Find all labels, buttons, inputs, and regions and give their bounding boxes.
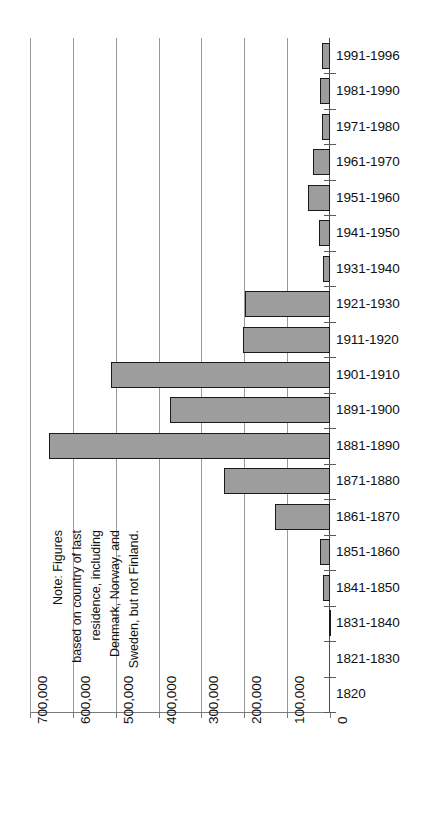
bar-1941-1950 (319, 220, 330, 246)
bar-1961-1970 (313, 149, 330, 175)
category-label-1871-1880: 1871-1880 (336, 474, 400, 488)
bar-1951-1960 (308, 185, 330, 211)
category-tick-1931-1940 (324, 286, 336, 287)
category-tick-1981-1990 (324, 109, 336, 110)
value-axis-label-100000: 100,000 (293, 676, 307, 724)
category-tick-1820 (324, 712, 336, 713)
category-tick-1851-1860 (324, 570, 336, 571)
bar-1931-1940 (323, 256, 330, 282)
category-label-1981-1990: 1981-1990 (336, 84, 400, 98)
axis-tick-700000 (30, 712, 31, 718)
axis-tick-600000 (73, 712, 74, 718)
bar-1891-1900 (170, 397, 330, 423)
axis-tick-100000 (287, 712, 288, 718)
bar-1971-1980 (322, 114, 330, 140)
category-tick-1911-1920 (324, 357, 336, 358)
bar-1901-1910 (111, 362, 330, 388)
axis-tick-500000 (116, 712, 117, 718)
category-label-1931-1940: 1931-1940 (336, 262, 400, 276)
category-label-1941-1950: 1941-1950 (336, 226, 400, 240)
category-tick-1881-1890 (324, 464, 336, 465)
category-tick-1831-1840 (324, 641, 336, 642)
axis-tick-400000 (159, 712, 160, 718)
bar-1981-1990 (320, 78, 330, 104)
gridline-700000 (30, 38, 31, 712)
category-label-1820: 1820 (336, 687, 366, 701)
category-label-1891-1900: 1891-1900 (336, 403, 400, 417)
bar-1881-1890 (49, 433, 330, 459)
bar-chart: 1991-19961981-19901971-19801961-19701951… (0, 0, 425, 834)
category-tick-1991-1996 (324, 73, 336, 74)
bar-1831-1840 (329, 610, 331, 636)
bar-1911-1920 (243, 327, 330, 353)
category-tick-1871-1880 (324, 499, 336, 500)
bar-1871-1880 (224, 468, 330, 494)
category-tick-1921-1930 (324, 322, 336, 323)
category-tick-1961-1970 (324, 180, 336, 181)
note-line-5: Sweden, but not Finland. (128, 530, 303, 668)
category-label-1921-1930: 1921-1930 (336, 297, 400, 311)
category-label-1991-1996: 1991-1996 (336, 49, 400, 63)
category-tick-1861-1870 (324, 535, 336, 536)
value-axis-label-700000: 700,000 (36, 676, 50, 724)
value-axis-label-300000: 300,000 (207, 676, 221, 724)
bar-1851-1860 (320, 539, 330, 565)
category-label-1911-1920: 1911-1920 (336, 333, 399, 347)
chart-note: Note: Figures based on country of last r… (52, 530, 172, 705)
category-tick-1891-1900 (324, 428, 336, 429)
bar-1841-1850 (323, 575, 330, 601)
category-label-1961-1970: 1961-1970 (336, 155, 400, 169)
category-label-1821-1830: 1821-1830 (336, 652, 400, 666)
category-label-1841-1850: 1841-1850 (336, 581, 400, 595)
category-label-1831-1840: 1831-1840 (336, 616, 400, 630)
category-tick-1901-1910 (324, 393, 336, 394)
axis-tick-300000 (201, 712, 202, 718)
category-tick-1841-1850 (324, 606, 336, 607)
category-label-1881-1890: 1881-1890 (336, 439, 400, 453)
category-tick-1971-1980 (324, 144, 336, 145)
bar-1921-1930 (245, 291, 330, 317)
category-label-1851-1860: 1851-1860 (336, 545, 400, 559)
category-label-1861-1870: 1861-1870 (336, 510, 400, 524)
category-label-1951-1960: 1951-1960 (336, 191, 400, 205)
value-axis-label-200000: 200,000 (250, 676, 264, 724)
category-label-1971-1980: 1971-1980 (336, 120, 400, 134)
axis-tick-200000 (244, 712, 245, 718)
value-axis-line (30, 712, 331, 713)
value-axis-label-0: 0 (336, 717, 350, 724)
category-label-1901-1910: 1901-1910 (336, 368, 400, 382)
bar-1991-1996 (322, 43, 330, 69)
bar-1861-1870 (275, 504, 330, 530)
category-tick-1941-1950 (324, 251, 336, 252)
category-tick-1821-1830 (324, 677, 336, 678)
category-tick-1951-1960 (324, 215, 336, 216)
